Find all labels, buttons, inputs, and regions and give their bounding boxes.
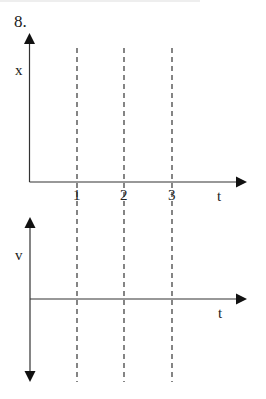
arrow-down-icon [25,371,36,382]
time-markers [77,48,172,382]
y-label-x: x [15,62,23,78]
tick-label-2: 2 [120,187,128,203]
top-edge [0,0,200,2]
motion-graphs-figure: 8. x t 1 2 3 v t [0,0,266,399]
arrow-right-icon [236,294,247,305]
x-label-t: t [217,188,222,204]
tick-label-1: 1 [73,187,81,203]
arrow-up-icon [24,33,35,44]
arrow-up-icon [25,217,36,228]
velocity-time-graph: v t [15,217,247,382]
problem-number: 8. [14,12,27,31]
position-time-graph: x t 1 2 3 [15,33,247,204]
tick-label-3: 3 [168,187,176,203]
x-label-t: t [218,305,223,321]
arrow-right-icon [236,177,247,188]
y-label-v: v [15,247,23,263]
